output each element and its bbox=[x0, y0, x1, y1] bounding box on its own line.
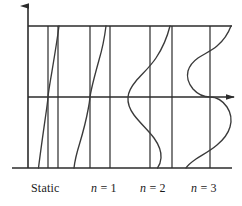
label-static: Static bbox=[31, 181, 60, 196]
label-mode-n1-value: = 1 bbox=[97, 181, 117, 195]
label-mode-n2-value: = 2 bbox=[146, 181, 166, 195]
mode-shape-plot bbox=[0, 0, 242, 206]
label-mode-n3-value: = 3 bbox=[197, 181, 217, 195]
mode-shape-figure: Static n = 1 n = 2 n = 3 bbox=[0, 0, 242, 206]
label-mode-n2: n = 2 bbox=[140, 181, 166, 196]
label-mode-n1: n = 1 bbox=[91, 181, 117, 196]
label-mode-n3: n = 3 bbox=[191, 181, 217, 196]
